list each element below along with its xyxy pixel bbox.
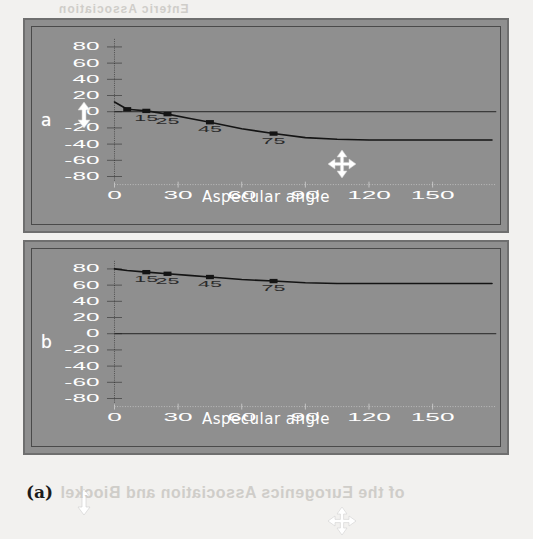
move-cursor-icon-b-curve[interactable] (325, 504, 359, 538)
y-tick-label: 80 (72, 41, 99, 53)
y-tick-label: 40 (72, 74, 99, 86)
panel-letter-a: a (41, 112, 51, 129)
y-tick-label: 20 (72, 312, 99, 324)
x-axis-title-a: Aspecular angle (25, 188, 507, 206)
figure-caption: (a) (26, 482, 53, 502)
bleed-through-text-bottom: of the Eurogenics Association and Biocke… (60, 484, 404, 502)
y-tick-label: -40 (64, 138, 99, 150)
y-tick-label: -80 (64, 393, 99, 405)
move-cursor-icon-a-curve[interactable] (325, 147, 359, 181)
data-point-label: 25 (156, 116, 180, 126)
data-point-marker[interactable] (123, 107, 131, 111)
y-tick-label: 80 (72, 263, 99, 275)
x-axis-title-b: Aspecular angle (25, 410, 507, 428)
data-point-label: 75 (262, 283, 286, 293)
x-axis-title-a-text: Aspecular angle (202, 188, 330, 206)
y-tick-label: -40 (64, 360, 99, 372)
figure-container: 806040200-20-40-60-800306090120150152545… (23, 18, 509, 468)
x-axis-title-b-text: Aspecular angle (202, 410, 330, 428)
data-point-label: 45 (198, 124, 222, 134)
chart-panel-a: 806040200-20-40-60-800306090120150152545… (23, 18, 509, 233)
move-cursor-icon-b-axis[interactable] (67, 485, 101, 519)
y-tick-label: 0 (86, 328, 100, 340)
data-point-label: 45 (198, 279, 222, 289)
data-point-label: 25 (156, 276, 180, 286)
panel-letter-b: b (41, 334, 52, 351)
y-tick-label: 60 (72, 279, 99, 291)
y-tick-label: -60 (64, 155, 99, 167)
y-tick-label: -20 (64, 344, 99, 356)
bleed-through-text-top: Enteric Association (58, 2, 189, 16)
data-point-label: 75 (262, 136, 286, 146)
y-tick-label: -60 (64, 377, 99, 389)
y-tick-label: 40 (72, 296, 99, 308)
y-tick-label: 60 (72, 57, 99, 69)
y-tick-label: -80 (64, 171, 99, 183)
chart-panel-b: 806040200-20-40-60-800306090120150152545… (23, 240, 509, 455)
move-cursor-icon-a-axis[interactable] (67, 98, 101, 132)
